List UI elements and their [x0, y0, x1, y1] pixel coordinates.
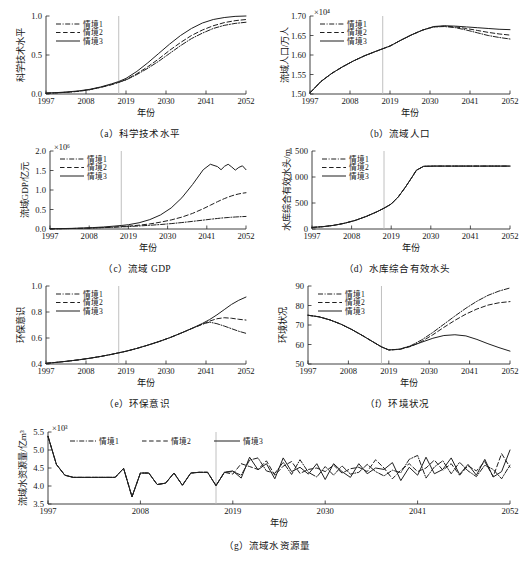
series-line-情境1	[46, 22, 246, 93]
x-axis-title: 年份	[137, 107, 155, 118]
y-axis-title: 流域GDP/亿元	[19, 162, 30, 219]
legend-label: 情境3	[83, 306, 103, 316]
subplot-caption-b: （b）流域人口	[268, 126, 526, 140]
legend: 情境1情境2情境3	[56, 19, 103, 46]
x-tick-label: 1997	[299, 366, 317, 376]
x-tick-label: 2052	[237, 366, 254, 376]
axis-exponent-label: ×10⁶	[54, 143, 70, 152]
subplot-d: 05001 0001 500199720082019203020412052水库…	[268, 141, 526, 259]
y-tick-label: 0.5	[31, 50, 42, 60]
x-tick-label: 1997	[303, 231, 321, 241]
series-line-情境2	[46, 318, 246, 364]
figure-container: 0.00.51.0199720082019203020412052科学技术水平年…	[0, 0, 531, 563]
subplot-f: 5060708090199720082019203020412052环境状况年份…	[268, 276, 526, 394]
y-tick-label: 1.70	[291, 11, 306, 21]
x-tick-label: 1997	[301, 96, 319, 106]
legend-label: 情境2	[87, 162, 107, 172]
subplot-caption-d: （d）水库综合有效水头	[268, 261, 526, 275]
subplot-b: 1.501.551.601.651.7019972008201920302041…	[268, 6, 526, 124]
x-axis-title: 年份	[137, 377, 155, 388]
legend-label: 情境2	[83, 297, 103, 307]
x-tick-label: 2052	[501, 366, 518, 376]
legend-label: 情境2	[349, 162, 369, 172]
y-tick-label: 1.0	[31, 281, 42, 291]
x-tick-label: 2019	[224, 506, 241, 516]
legend-label: 情境3	[243, 436, 263, 446]
x-tick-label: 2041	[198, 231, 215, 241]
series-line-情境1	[310, 27, 510, 93]
x-tick-label: 2008	[341, 96, 358, 106]
x-tick-label: 2019	[383, 231, 400, 241]
x-tick-label: 2041	[197, 96, 214, 106]
x-tick-label: 2030	[157, 366, 174, 376]
x-axis-title: 年份	[402, 242, 420, 253]
y-tick-label: 1.0	[31, 11, 42, 21]
legend-label: 情境3	[349, 171, 369, 181]
y-axis-title: 环保意识	[15, 307, 26, 343]
x-axis-title: 年份	[139, 242, 157, 253]
subplot-g: 3.54.04.55.05.5199720082019203020412052×…	[8, 418, 526, 548]
x-tick-label: 2041	[461, 96, 478, 106]
x-tick-label: 2019	[380, 366, 397, 376]
x-tick-label: 2030	[317, 506, 334, 516]
subplot-caption-a: （a）科学技术水平	[8, 126, 266, 140]
x-tick-label: 2008	[340, 366, 357, 376]
x-tick-label: 2019	[117, 96, 134, 106]
series-line-情境3	[46, 297, 246, 363]
y-axis-title: 流域水资源量/亿m³	[17, 430, 28, 506]
x-axis-title: 年份	[401, 107, 419, 118]
series-line-情境2	[50, 193, 246, 229]
axis-spine	[50, 151, 246, 229]
x-tick-label: 2008	[343, 231, 360, 241]
series-line-情境3	[312, 166, 510, 227]
x-tick-label: 2030	[157, 96, 174, 106]
y-tick-label: 4.5	[33, 463, 44, 473]
legend-label: 情境1	[349, 154, 369, 164]
legend-label: 情境2	[347, 27, 367, 37]
axis-exponent-label: ×10³	[52, 424, 68, 433]
subplot-caption-f: （f）环境状况	[268, 396, 526, 410]
y-tick-label: 80	[295, 301, 304, 311]
legend-label: 情境1	[347, 19, 367, 29]
x-tick-label: 2041	[409, 506, 426, 516]
series-line-情境2	[46, 20, 246, 94]
y-tick-label: 70	[295, 320, 304, 330]
x-axis-title: 年份	[400, 377, 418, 388]
x-tick-label: 2019	[120, 231, 137, 241]
x-tick-label: 2008	[77, 96, 94, 106]
x-tick-label: 2052	[501, 231, 518, 241]
legend: 情境1情境2情境3	[70, 436, 263, 446]
subplot-caption-c: （c）流域 GDP	[8, 261, 266, 275]
y-tick-label: 500	[295, 198, 308, 208]
legend-label: 情境3	[345, 306, 365, 316]
y-axis-title: 流域人口/万人	[279, 27, 290, 84]
legend-label: 情境2	[345, 297, 365, 307]
legend-label: 情境1	[345, 289, 365, 299]
y-axis-title: 科学技术水平	[15, 28, 26, 82]
subplot-c: 0.00.51.01.52.0199720082019203020412052×…	[8, 141, 266, 259]
x-tick-label: 2019	[117, 366, 134, 376]
series-line-情境1	[50, 216, 246, 228]
x-tick-label: 2019	[381, 96, 398, 106]
y-tick-label: 90	[295, 281, 304, 291]
y-tick-label: 1.0	[35, 185, 46, 195]
x-tick-label: 2041	[197, 366, 214, 376]
legend: 情境1情境2情境3	[56, 289, 103, 316]
legend-label: 情境1	[83, 19, 103, 29]
axis-spine	[308, 286, 510, 364]
y-axis-title: 环境状况	[277, 307, 288, 343]
x-tick-label: 1997	[39, 506, 57, 516]
y-tick-label: 1.60	[291, 50, 306, 60]
series-line-情境2	[312, 166, 510, 227]
x-tick-label: 2008	[77, 366, 94, 376]
y-tick-label: 2.0	[35, 146, 46, 156]
x-tick-label: 2052	[501, 96, 518, 106]
axis-spine	[46, 286, 246, 364]
legend-label: 情境3	[83, 36, 103, 46]
x-tick-label: 2008	[81, 231, 98, 241]
legend-label: 情境1	[87, 154, 107, 164]
y-tick-label: 60	[295, 340, 304, 350]
y-tick-label: 1.5	[35, 166, 46, 176]
y-tick-label: 5.5	[33, 427, 44, 437]
series-line-情境1	[46, 322, 246, 363]
